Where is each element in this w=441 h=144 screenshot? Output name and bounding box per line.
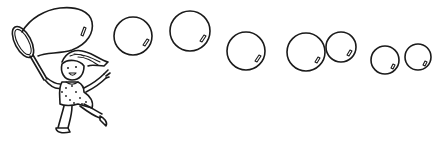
illustration-svg (0, 0, 441, 144)
bubble-2 (170, 11, 210, 51)
bubble-3 (227, 32, 265, 70)
bubble-6 (371, 46, 399, 74)
wand-bubble (22, 8, 92, 56)
bubble-1 (114, 17, 152, 55)
bubbles (114, 11, 431, 74)
bubble-5 (326, 32, 356, 62)
bubble-4 (287, 33, 325, 71)
bubble-wand (8, 23, 47, 80)
bubble-7 (405, 44, 431, 70)
illustration-canvas: Line-art illustration of a girl running … (0, 0, 441, 144)
girl-figure (45, 50, 110, 132)
